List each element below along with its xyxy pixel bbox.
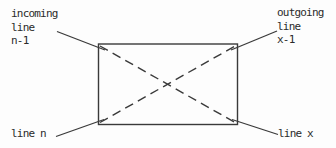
outgoing-label-line-word: line <box>277 20 324 34</box>
line-n-leader <box>56 120 104 137</box>
line-x-label: line x <box>278 127 313 141</box>
line-x-leader <box>232 120 278 135</box>
incoming-label-line-word: line <box>11 21 58 35</box>
incoming-line-label: incoming line n-1 <box>11 7 58 48</box>
outgoing-line-leader <box>231 31 277 50</box>
incoming-label-word: incoming <box>11 7 58 21</box>
line-n-label: line n <box>11 127 46 141</box>
outgoing-label-index: x-1 <box>277 33 324 47</box>
outgoing-line-label: outgoing line x-1 <box>277 6 324 47</box>
outgoing-label-word: outgoing <box>277 6 324 20</box>
incoming-line-leader <box>57 32 105 51</box>
switch-diagram: incoming line n-1 outgoing line x-1 line… <box>0 0 336 148</box>
incoming-label-index: n-1 <box>11 34 58 48</box>
